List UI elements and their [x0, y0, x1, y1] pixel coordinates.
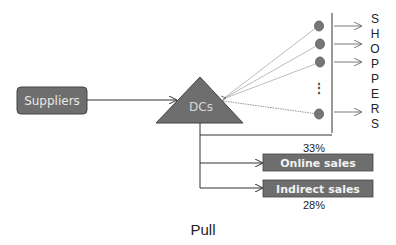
- shopper-node-4: [315, 109, 324, 119]
- shoppers-label: S H O P P E R S: [370, 12, 379, 131]
- dc-line-1: [223, 27, 317, 99]
- indirect-sales-label: Indirect sales: [276, 183, 360, 196]
- pull-diagram: Suppliers DCs ⋮ S H O P P E R: [0, 0, 396, 245]
- shopper-arrows: [334, 26, 361, 112]
- suppliers-node: Suppliers: [17, 87, 87, 114]
- shopper-node-3: [316, 57, 325, 67]
- suppliers-label: Suppliers: [24, 94, 80, 108]
- shopper-node-2: [316, 39, 325, 49]
- diagram-caption: Pull: [190, 221, 215, 238]
- dc-line-2: [223, 45, 318, 99]
- dcs-label: DCs: [189, 100, 213, 114]
- shoppers-letter: R: [371, 102, 380, 116]
- shoppers-letter: P: [371, 72, 379, 86]
- shoppers-letter: E: [371, 87, 379, 101]
- online-sales-node: Online sales: [263, 154, 373, 171]
- shopper-node-1: [315, 21, 324, 31]
- indirect-sales-percent: 28%: [303, 199, 325, 211]
- online-sales-label: Online sales: [280, 157, 356, 170]
- dc-to-shopper-lines: [221, 27, 318, 114]
- dc-line-4: [223, 101, 318, 114]
- shoppers-letter: S: [371, 12, 379, 26]
- ellipsis-icon: ⋮: [313, 81, 325, 95]
- indirect-sales-node: Indirect sales: [263, 180, 373, 197]
- online-sales-percent: 33%: [303, 142, 325, 154]
- shoppers-letter: S: [371, 117, 379, 131]
- dc-line-3: [223, 63, 318, 99]
- shoppers-letter: P: [371, 57, 379, 71]
- shopper-nodes: ⋮: [313, 21, 325, 119]
- shoppers-letter: O: [370, 42, 379, 56]
- shoppers-letter: H: [371, 27, 380, 41]
